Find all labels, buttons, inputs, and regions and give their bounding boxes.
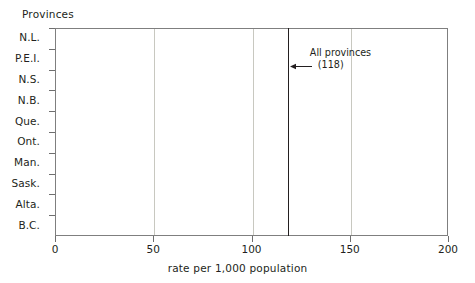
annotation-line-1: All provinces	[290, 47, 371, 59]
x-tick-mark-50	[153, 236, 154, 242]
y-tick-label-nl: N.L.	[19, 31, 40, 43]
x-tick-label-0: 0	[52, 243, 59, 255]
x-tick-label-200: 200	[438, 243, 458, 255]
y-tick-label-bc: B.C.	[18, 219, 40, 231]
x-tick-label-150: 150	[340, 243, 360, 255]
y-tick-label-nb: N.B.	[18, 94, 40, 106]
x-tick-label-100: 100	[241, 243, 261, 255]
bar-nl[interactable]	[56, 32, 245, 46]
x-tick-mark-150	[350, 236, 351, 242]
bar-que[interactable]	[56, 116, 249, 130]
y-tick-label-ont: Ont.	[17, 135, 40, 147]
bar-ont[interactable]	[56, 136, 284, 150]
y-tick-label-man: Man.	[14, 156, 40, 168]
bar-pei[interactable]	[56, 53, 239, 67]
y-tick-label-que: Que.	[15, 115, 40, 127]
bar-bc[interactable]	[56, 220, 323, 234]
bar-alta[interactable]	[56, 199, 323, 213]
x-tick-mark-200	[448, 236, 449, 242]
y-tick-label-pei: P.E.I.	[15, 52, 40, 64]
bar-chart-figure: Provinces N.L.P.E.I.N.S.N.B.Que.Ont.Man.…	[0, 0, 475, 283]
x-tick-mark-100	[252, 236, 253, 242]
x-tick-label-50: 50	[147, 243, 160, 255]
plot-area: All provinces(118)	[55, 28, 448, 236]
x-axis-title: rate per 1,000 population	[0, 262, 475, 274]
bar-man[interactable]	[56, 157, 400, 171]
annotation-arrow-icon	[290, 61, 312, 68]
x-axis-tick-labels: 050100150200	[55, 236, 448, 262]
x-tick-mark-0	[55, 236, 56, 242]
y-tick-label-sask: Sask.	[12, 177, 41, 189]
reference-line-annotation: All provinces(118)	[290, 47, 371, 71]
y-axis-tick-labels: N.L.P.E.I.N.S.N.B.Que.Ont.Man.Sask.Alta.…	[0, 28, 50, 236]
bar-sask[interactable]	[56, 178, 370, 192]
bar-ns[interactable]	[56, 74, 247, 88]
y-tick-label-alta: Alta.	[16, 198, 41, 210]
y-axis-title: Provinces	[22, 8, 74, 20]
y-tick-label-ns: N.S.	[18, 73, 40, 85]
bar-nb[interactable]	[56, 95, 292, 109]
plot-inner: All provinces(118)	[56, 29, 447, 235]
